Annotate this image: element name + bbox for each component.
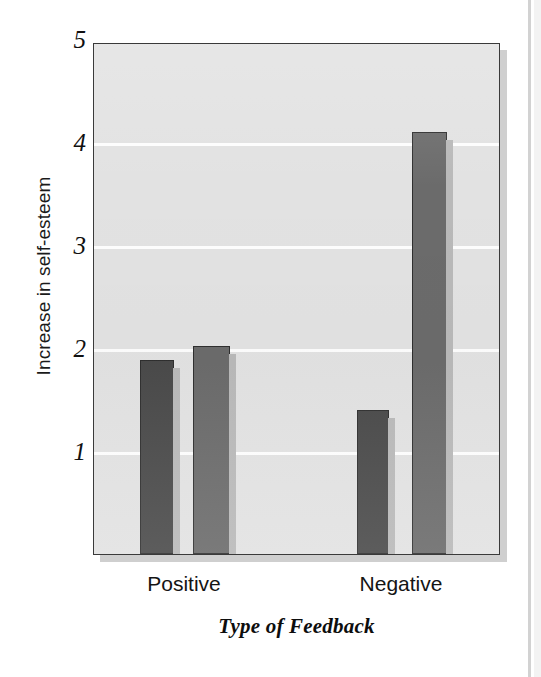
x-tick-label-positive: Positive [94,572,274,596]
page-edge-rule [528,0,531,677]
bar-positive-1 [140,360,174,554]
y-axis-title: Increase in self-esteem [30,0,58,556]
bar-shadow [446,140,453,555]
bar-shadow [229,354,236,555]
plot-area [93,43,500,555]
bar-positive-2 [193,346,230,554]
bar-shadow [173,368,180,555]
page-margin-band [534,0,541,677]
figure-bar-chart: 54321 PositiveNegative Increase in self-… [0,0,541,677]
bar-negative-1 [357,410,389,554]
bar-shadow [388,418,395,555]
x-tick-label-negative: Negative [311,572,491,596]
x-axis-title: Type of Feedback [93,614,500,639]
bar-negative-2 [412,132,447,554]
